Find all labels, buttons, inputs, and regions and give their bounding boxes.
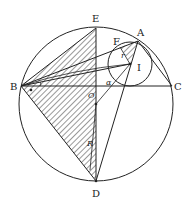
label-c: C bbox=[174, 81, 182, 92]
label-alpha: α bbox=[106, 78, 112, 87]
label-a: A bbox=[136, 27, 145, 38]
label-d: D bbox=[92, 188, 100, 199]
segment-ad bbox=[96, 41, 138, 181]
point-i-dot bbox=[129, 63, 132, 66]
angle-dot-b bbox=[30, 89, 33, 92]
label-o: O bbox=[88, 91, 95, 100]
geometry-diagram: E A F I B C O α r R D bbox=[0, 0, 191, 203]
point-o-dot bbox=[95, 103, 98, 106]
label-r-big: R bbox=[86, 139, 93, 148]
point-d-dot bbox=[95, 180, 98, 183]
label-f: F bbox=[113, 36, 120, 47]
segment-ac bbox=[138, 41, 172, 86]
label-b: B bbox=[10, 81, 17, 92]
label-i: I bbox=[137, 62, 141, 73]
label-e: E bbox=[92, 13, 99, 24]
